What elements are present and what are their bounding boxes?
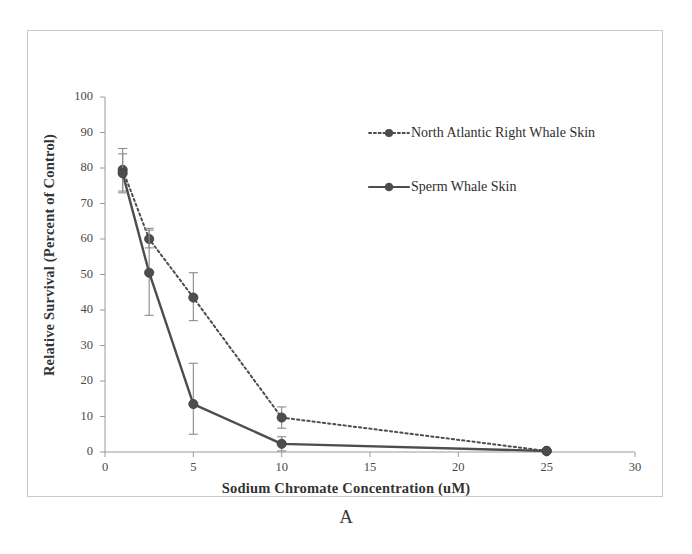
y-tick-label: 60	[63, 231, 93, 246]
legend-label-0: North Atlantic Right Whale Skin	[410, 125, 595, 141]
y-tick-label: 70	[63, 196, 93, 211]
x-tick-label: 25	[530, 460, 564, 475]
y-tick-label: 0	[63, 444, 93, 459]
x-tick-label: 30	[618, 460, 652, 475]
legend-swatch-dotted	[368, 126, 410, 140]
figure-root: 0102030405060708090100 051015202530 Rela…	[0, 0, 692, 554]
x-tick-label: 15	[353, 460, 387, 475]
chart-legend: North Atlantic Right Whale Skin Sperm Wh…	[368, 118, 648, 226]
x-tick-label: 20	[441, 460, 475, 475]
legend-item-north-atlantic-right-whale-skin: North Atlantic Right Whale Skin	[368, 118, 648, 148]
x-tick-label: 0	[88, 460, 122, 475]
y-tick-label: 10	[63, 409, 93, 424]
y-tick-label: 100	[63, 89, 93, 104]
y-axis-title: Relative Survival (Percent of Control)	[38, 90, 60, 420]
y-tick-label: 40	[63, 302, 93, 317]
y-tick-label: 90	[63, 125, 93, 140]
y-tick-label: 50	[63, 267, 93, 282]
y-axis-title-text: Relative Survival (Percent of Control)	[41, 134, 58, 376]
y-tick-label: 30	[63, 338, 93, 353]
legend-swatch-solid	[368, 180, 410, 194]
x-tick-label: 10	[265, 460, 299, 475]
x-tick-label: 5	[176, 460, 210, 475]
y-tick-label: 80	[63, 160, 93, 175]
legend-label-1: Sperm Whale Skin	[410, 179, 517, 195]
panel-label: A	[0, 506, 692, 528]
x-axis-title: Sodium Chromate Concentration (uM)	[0, 480, 692, 497]
y-tick-label: 20	[63, 373, 93, 388]
legend-item-sperm-whale-skin: Sperm Whale Skin	[368, 172, 648, 202]
